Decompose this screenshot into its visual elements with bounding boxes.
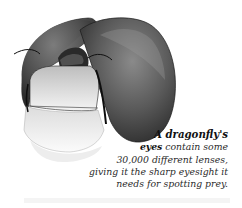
caption-bold-word: eyes <box>140 141 162 152</box>
caption-lead: A dragonfly's <box>154 128 228 140</box>
caption-line-2: eyes contain some <box>78 141 228 153</box>
page: A dragonfly's eyes contain some 30,000 d… <box>0 0 242 208</box>
bottom-band <box>24 198 230 203</box>
caption-line-5: needs for spotting prey. <box>78 178 228 190</box>
caption-line-2-rest: contain some <box>162 141 228 152</box>
caption: A dragonfly's eyes contain some 30,000 d… <box>78 128 228 190</box>
face <box>30 66 99 111</box>
caption-line-1: A dragonfly's <box>78 128 228 141</box>
caption-line-4: giving it the sharp eyesight it <box>78 166 228 178</box>
caption-line-3: 30,000 different lenses, <box>78 154 228 166</box>
